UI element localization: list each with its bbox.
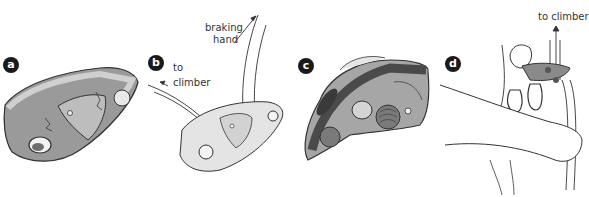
- rope-path-illustration: [140, 0, 295, 197]
- arrow-icon: [160, 81, 168, 86]
- belay-device-closed-illustration: [0, 0, 145, 197]
- belay-device-open-illustration: [290, 0, 440, 197]
- panel-d: d to climber: [430, 0, 587, 197]
- panel-b: b to climber braking hand: [140, 0, 295, 197]
- arrow-icon: [553, 26, 559, 70]
- panel-a: a: [0, 0, 145, 197]
- belayer-hands-illustration: [430, 0, 587, 197]
- panel-c: c: [290, 0, 440, 197]
